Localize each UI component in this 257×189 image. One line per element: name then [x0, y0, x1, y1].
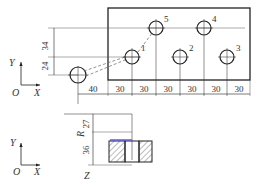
svg-text:30: 30 — [235, 84, 245, 94]
xy-axis-side: Y O X — [10, 137, 41, 177]
svg-text:30: 30 — [140, 84, 150, 94]
svg-text:27: 27 — [81, 119, 91, 129]
workpiece-outline — [108, 8, 250, 80]
svg-text:30: 30 — [188, 84, 198, 94]
svg-text:Y: Y — [10, 137, 17, 148]
svg-text:X: X — [33, 87, 41, 98]
svg-text:R: R — [75, 131, 86, 138]
svg-text:X: X — [33, 166, 41, 177]
svg-text:O: O — [12, 87, 19, 98]
svg-text:5: 5 — [164, 14, 169, 24]
svg-text:Z: Z — [84, 170, 90, 181]
svg-text:4: 4 — [212, 14, 217, 24]
drilling-diagram: 34 24 1 2 3 — [0, 0, 257, 189]
xy-axis-top: Y O X — [9, 57, 41, 98]
svg-text:30: 30 — [116, 84, 126, 94]
svg-text:36: 36 — [81, 145, 91, 155]
side-view: 27 36 R Z Y O X — [10, 114, 152, 181]
svg-text:40: 40 — [89, 84, 99, 94]
dim-24: 24 — [40, 61, 50, 71]
svg-text:1: 1 — [141, 43, 146, 53]
svg-text:3: 3 — [236, 43, 241, 53]
top-view: 34 24 1 2 3 — [9, 8, 250, 104]
dim-34: 34 — [40, 41, 50, 51]
svg-text:2: 2 — [189, 43, 194, 53]
svg-text:30: 30 — [164, 84, 174, 94]
svg-text:Y: Y — [9, 57, 16, 68]
svg-text:O: O — [13, 166, 20, 177]
svg-text:30: 30 — [212, 84, 222, 94]
